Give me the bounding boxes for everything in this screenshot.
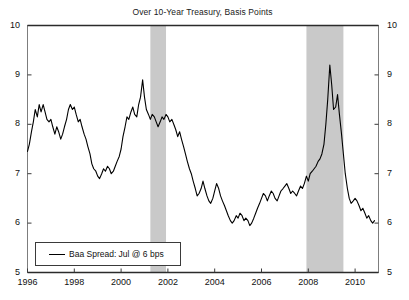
legend-line-swatch bbox=[49, 254, 65, 255]
y-axis-left-tick-7: 7 bbox=[2, 168, 20, 178]
y-axis-left-tick-8: 8 bbox=[2, 118, 20, 128]
y-axis-right-tick-8: 8 bbox=[387, 118, 405, 128]
y-axis-right-tick-5: 5 bbox=[387, 267, 405, 277]
legend-label-baa-spread: Baa Spread: Jul @ 6 bps bbox=[69, 249, 164, 259]
x-axis-tick-1996: 1996 bbox=[11, 277, 45, 287]
y-axis-left-tick-5: 5 bbox=[2, 267, 20, 277]
y-axis-left-tick-6: 6 bbox=[2, 217, 20, 227]
y-axis-right-tick-6: 6 bbox=[387, 217, 405, 227]
x-axis-tick-2004: 2004 bbox=[198, 277, 232, 287]
x-axis-tick-2008: 2008 bbox=[291, 277, 325, 287]
chart-container: Over 10-Year Treasury, Basis Points 5678… bbox=[0, 0, 409, 300]
y-axis-right-tick-7: 7 bbox=[387, 168, 405, 178]
recession-shading-group bbox=[150, 26, 343, 273]
y-axis-left-tick-9: 9 bbox=[2, 69, 20, 79]
y-axis-right-tick-9: 9 bbox=[387, 69, 405, 79]
x-axis-tick-2010: 2010 bbox=[338, 277, 372, 287]
y-axis-right-tick-10: 10 bbox=[387, 20, 405, 30]
x-axis-tick-2000: 2000 bbox=[104, 277, 138, 287]
legend[interactable]: Baa Spread: Jul @ 6 bps bbox=[35, 242, 181, 266]
x-axis-tick-2002: 2002 bbox=[151, 277, 185, 287]
recession-2008 bbox=[306, 26, 343, 273]
x-axis-tick-2006: 2006 bbox=[245, 277, 279, 287]
recession-2001 bbox=[150, 26, 166, 273]
y-axis-left-tick-10: 10 bbox=[2, 20, 20, 30]
x-axis-tick-1998: 1998 bbox=[57, 277, 91, 287]
